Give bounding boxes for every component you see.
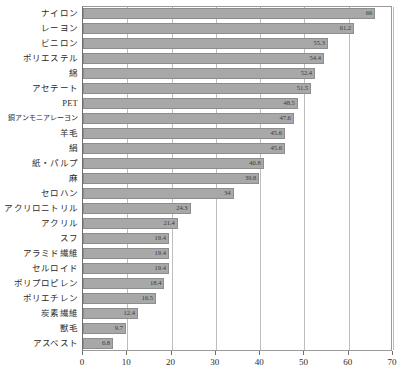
bar-value-label: 6.8	[102, 340, 110, 347]
bar-row: アラミド繊維19.4	[0, 246, 416, 261]
bar-row: アクリル21.4	[0, 216, 416, 231]
bar-wrapper: 9.7	[0, 323, 416, 333]
x-tick-label: 30	[210, 357, 219, 367]
bar-row: ポリプロピレン18.4	[0, 276, 416, 291]
bar-wrapper: 61.2	[0, 23, 416, 33]
bar-wrapper: 39.8	[0, 173, 416, 183]
bar-wrapper: 66	[0, 8, 416, 18]
bar-row: 獣毛9.7	[0, 321, 416, 336]
bar-value-label: 39.8	[245, 175, 256, 182]
bar-row: セルロイド19.4	[0, 261, 416, 276]
bar[interactable]	[83, 188, 234, 198]
bar-wrapper: 6.8	[0, 338, 416, 348]
bar[interactable]	[83, 158, 264, 168]
bar-row: 羊毛45.6	[0, 126, 416, 141]
x-tick-label: 50	[299, 357, 308, 367]
bar-value-label: 45.6	[271, 145, 282, 152]
bar-row: ポリエステル54.4	[0, 51, 416, 66]
bar-row: アクリロニトリル24.3	[0, 201, 416, 216]
x-tick-mark-0	[82, 351, 83, 355]
x-tick-mark-40	[259, 351, 260, 355]
bar-wrapper: 19.4	[0, 233, 416, 243]
bar-wrapper: 24.3	[0, 203, 416, 213]
bar[interactable]	[83, 143, 285, 153]
bar-row: 紙・パルプ40.8	[0, 156, 416, 171]
bar-value-label: 16.5	[142, 295, 153, 302]
bar[interactable]	[83, 23, 354, 33]
bar-wrapper: 16.5	[0, 293, 416, 303]
bar-rows: ナイロン66レーヨン61.2ビニロン55.3ポリエステル54.4綿52.4アセテ…	[0, 6, 416, 351]
x-tick-label: 10	[122, 357, 131, 367]
bar-row: 綿52.4	[0, 66, 416, 81]
bar-wrapper: 18.4	[0, 278, 416, 288]
bar-wrapper: 34	[0, 188, 416, 198]
bar[interactable]	[83, 83, 311, 93]
bar-row: ポリエチレン16.5	[0, 291, 416, 306]
bar-value-label: 19.4	[155, 265, 166, 272]
bar[interactable]	[83, 38, 328, 48]
bar-row: ナイロン66	[0, 6, 416, 21]
bar[interactable]	[83, 203, 191, 213]
bar-value-label: 55.3	[314, 40, 325, 47]
bar-row: レーヨン61.2	[0, 21, 416, 36]
bar-value-label: 40.8	[249, 160, 260, 167]
bar-value-label: 51.5	[297, 85, 308, 92]
bar-value-label: 45.6	[271, 130, 282, 137]
bar-value-label: 61.2	[340, 25, 351, 32]
bar[interactable]	[83, 68, 315, 78]
bar-wrapper: 55.3	[0, 38, 416, 48]
bar[interactable]	[83, 113, 294, 123]
x-tick-mark-30	[215, 351, 216, 355]
bar-row: 絹45.6	[0, 141, 416, 156]
bar[interactable]	[83, 98, 298, 108]
bar-row: 銅アンモニアレーヨン47.6	[0, 111, 416, 126]
bar-row: スフ19.4	[0, 231, 416, 246]
bar-row: ビニロン55.3	[0, 36, 416, 51]
bar-wrapper: 12.4	[0, 308, 416, 318]
bar-value-label: 24.3	[176, 205, 187, 212]
bar[interactable]	[83, 173, 259, 183]
bar-row: セロハン34	[0, 186, 416, 201]
bar-wrapper: 51.5	[0, 83, 416, 93]
bar-row: アセテート51.5	[0, 81, 416, 96]
bar[interactable]	[83, 8, 375, 18]
bar-value-label: 54.4	[310, 55, 321, 62]
bar-value-label: 18.4	[150, 280, 161, 287]
bar-value-label: 12.4	[124, 310, 135, 317]
bar-wrapper: 52.4	[0, 68, 416, 78]
bar-row: PET48.5	[0, 96, 416, 111]
bar-wrapper: 45.6	[0, 128, 416, 138]
x-tick-label: 60	[343, 357, 352, 367]
bar-row: 炭素繊維12.4	[0, 306, 416, 321]
bar-wrapper: 19.4	[0, 263, 416, 273]
bar-value-label: 52.4	[301, 70, 312, 77]
x-tick-mark-10	[126, 351, 127, 355]
bar-value-label: 48.5	[283, 100, 294, 107]
bar-value-label: 47.6	[279, 115, 290, 122]
x-tick-label: 20	[166, 357, 175, 367]
bar[interactable]	[83, 53, 324, 63]
x-axis: 010203040506070	[82, 351, 392, 377]
x-tick-label: 0	[80, 357, 85, 367]
bar-wrapper: 45.6	[0, 143, 416, 153]
bar-value-label: 19.4	[155, 250, 166, 257]
bar-wrapper: 19.4	[0, 248, 416, 258]
bar[interactable]	[83, 128, 285, 138]
bar-chart: ナイロン66レーヨン61.2ビニロン55.3ポリエステル54.4綿52.4アセテ…	[0, 0, 416, 378]
bar-wrapper: 48.5	[0, 98, 416, 108]
bar-value-label: 9.7	[115, 325, 123, 332]
bar-value-label: 34	[224, 190, 231, 197]
x-tick-mark-60	[348, 351, 349, 355]
bar-wrapper: 47.6	[0, 113, 416, 123]
bar-wrapper: 21.4	[0, 218, 416, 228]
x-tick-mark-20	[171, 351, 172, 355]
bar-row: アスベスト6.8	[0, 336, 416, 351]
bar-wrapper: 40.8	[0, 158, 416, 168]
x-tick-mark-50	[303, 351, 304, 355]
x-tick-label: 70	[388, 357, 397, 367]
bar-value-label: 66	[366, 10, 373, 17]
bar-wrapper: 54.4	[0, 53, 416, 63]
x-tick-label: 40	[255, 357, 264, 367]
bar-value-label: 21.4	[163, 220, 174, 227]
bar-value-label: 19.4	[155, 235, 166, 242]
